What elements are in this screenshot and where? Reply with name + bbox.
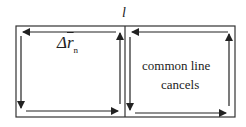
- vector-symbol: r: [67, 33, 74, 52]
- caption-line-1: common line: [142, 58, 210, 74]
- delta-symbol: Δ: [57, 33, 67, 52]
- length-label: l: [122, 5, 126, 21]
- subscript: n: [74, 45, 79, 55]
- caption-line-2: cancels: [161, 77, 199, 93]
- delta-r-n-label: Δrn: [57, 33, 78, 55]
